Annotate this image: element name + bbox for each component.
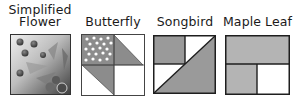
pattern-label-line2: Flower: [0, 15, 80, 28]
pattern-label: Maple Leaf: [220, 15, 295, 28]
pattern-butterfly[interactable]: Butterfly: [74, 0, 152, 102]
pattern-maple-leaf[interactable]: Maple Leaf: [220, 0, 295, 102]
pattern-label: Butterfly: [74, 15, 152, 28]
butterfly-image[interactable]: [81, 34, 145, 96]
pattern-label: Songbird: [148, 15, 222, 28]
pattern-simplified-flower[interactable]: Simplified Flower: [0, 0, 80, 102]
pattern-songbird[interactable]: Songbird: [148, 0, 222, 102]
simplified-flower-image[interactable]: [10, 34, 71, 95]
maple-leaf-image[interactable]: [225, 35, 290, 95]
songbird-image[interactable]: [153, 35, 216, 94]
